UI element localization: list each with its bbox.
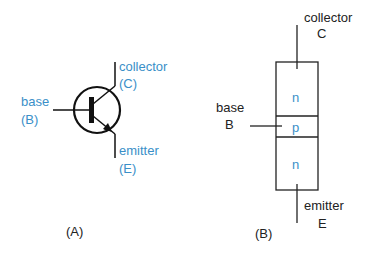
label-emitter-a: emitter	[119, 143, 159, 158]
label-collector-abbr-a: (C)	[119, 76, 137, 91]
caption-b: (B)	[255, 226, 272, 241]
panel-b-labels: collector C base B emitter E (B)	[216, 10, 353, 241]
label-base-b: base	[216, 100, 244, 115]
label-emitter-b: emitter	[304, 198, 344, 213]
label-base-abbr-b: B	[225, 117, 234, 132]
panel-a-symbol	[53, 62, 120, 158]
label-base-a: base	[21, 94, 49, 109]
label-collector-abbr-b: C	[317, 26, 326, 41]
label-emitter-abbr-a: (E)	[119, 161, 136, 176]
caption-a: (A)	[66, 224, 83, 239]
label-emitter-abbr-b: E	[318, 216, 327, 231]
region-collector-n: n	[292, 90, 299, 105]
label-collector-a: collector	[119, 59, 168, 74]
label-collector-b: collector	[304, 10, 353, 25]
region-emitter-n: n	[292, 157, 299, 172]
base-bar	[89, 97, 94, 123]
panel-a-labels: collector (C) base (B) emitter (E) (A)	[21, 59, 168, 239]
panel-b-structure: n p n	[250, 25, 318, 223]
region-base-p: p	[292, 120, 299, 135]
transistor-diagram: collector (C) base (B) emitter (E) (A) n…	[0, 0, 382, 257]
label-base-abbr-a: (B)	[21, 112, 38, 127]
